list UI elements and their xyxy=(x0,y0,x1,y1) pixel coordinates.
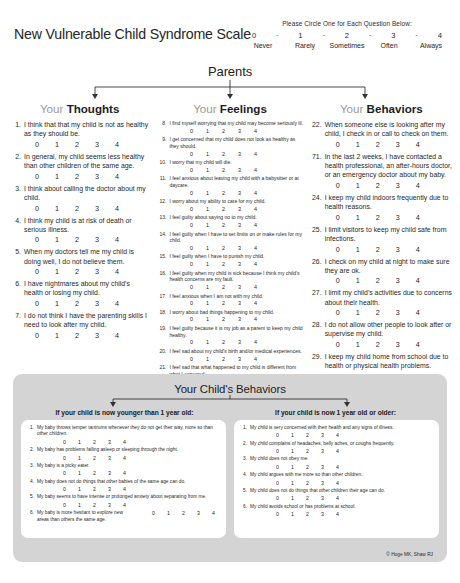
rating-option-1[interactable]: 1 xyxy=(348,140,368,150)
rating-option-4[interactable]: 4 xyxy=(247,284,263,291)
rating-option-3[interactable]: 3 xyxy=(315,495,330,502)
rating-option-1[interactable]: 1 xyxy=(47,267,67,277)
rating-option-2[interactable]: 2 xyxy=(300,432,315,439)
rating-option-1[interactable]: 1 xyxy=(348,340,368,350)
rating-option-3[interactable]: 3 xyxy=(315,480,330,487)
rating-option-0[interactable]: 0 xyxy=(27,235,47,245)
rating-option-1[interactable]: 1 xyxy=(47,204,67,214)
rating-option-2[interactable]: 2 xyxy=(215,206,231,213)
rating-option-4[interactable]: 4 xyxy=(117,502,132,509)
rating-scale-row[interactable]: 01234 xyxy=(37,455,221,462)
rating-option-0[interactable]: 0 xyxy=(183,339,199,346)
rating-option-0[interactable]: 0 xyxy=(328,213,348,223)
rating-option-4[interactable]: 4 xyxy=(330,480,345,487)
rating-option-1[interactable]: 1 xyxy=(199,190,215,197)
rating-option-2[interactable]: 2 xyxy=(215,222,231,229)
rating-option-3[interactable]: 3 xyxy=(231,206,247,213)
rating-option-0[interactable]: 0 xyxy=(270,495,285,502)
rating-option-0[interactable]: 0 xyxy=(328,308,348,318)
rating-scale-row[interactable]: 01234 xyxy=(37,439,221,446)
rating-option-2[interactable]: 2 xyxy=(215,316,231,323)
rating-option-3[interactable]: 3 xyxy=(231,190,247,197)
rating-scale-row[interactable]: 01234 xyxy=(325,276,452,286)
rating-option-3[interactable]: 3 xyxy=(87,331,107,341)
rating-option-4[interactable]: 4 xyxy=(330,464,345,471)
rating-scale-row[interactable]: 01234 xyxy=(169,128,304,135)
rating-scale-row[interactable]: 01234 xyxy=(169,151,304,158)
rating-scale-row[interactable]: 01234 xyxy=(24,172,149,182)
rating-option-4[interactable]: 4 xyxy=(247,300,263,307)
rating-scale-row[interactable]: 01234 xyxy=(169,316,304,323)
rating-option-3[interactable]: 3 xyxy=(87,299,107,309)
rating-scale-row[interactable]: 01234 xyxy=(37,502,221,509)
rating-scale-row[interactable]: 01234 xyxy=(169,356,304,363)
rating-option-1[interactable]: 1 xyxy=(199,167,215,174)
rating-option-1[interactable]: 1 xyxy=(348,245,368,255)
rating-option-0[interactable]: 0 xyxy=(183,316,199,323)
rating-scale-row[interactable]: 01234 xyxy=(169,206,304,213)
rating-option-4[interactable]: 4 xyxy=(247,167,263,174)
rating-option-1[interactable]: 1 xyxy=(199,261,215,268)
rating-scale-row[interactable]: 01234 xyxy=(250,464,434,471)
rating-option-1[interactable]: 1 xyxy=(47,331,67,341)
rating-scale-row[interactable]: 01234 xyxy=(169,245,304,252)
rating-option-2[interactable]: 2 xyxy=(215,190,231,197)
rating-scale-row[interactable]: 01234 xyxy=(37,486,221,493)
rating-option-3[interactable]: 3 xyxy=(315,432,330,439)
rating-option-2[interactable]: 2 xyxy=(87,470,102,477)
rating-option-0[interactable]: 0 xyxy=(57,455,72,462)
rating-option-2[interactable]: 2 xyxy=(215,128,231,135)
rating-option-2[interactable]: 2 xyxy=(215,167,231,174)
rating-option-4[interactable]: 4 xyxy=(408,181,428,191)
rating-option-0[interactable]: 0 xyxy=(270,480,285,487)
rating-option-3[interactable]: 3 xyxy=(102,455,117,462)
rating-option-4[interactable]: 4 xyxy=(408,308,428,318)
rating-option-4[interactable]: 4 xyxy=(408,276,428,286)
rating-option-0[interactable]: 0 xyxy=(57,502,72,509)
rating-scale-row[interactable]: 01234 xyxy=(325,308,452,318)
rating-option-3[interactable]: 3 xyxy=(231,222,247,229)
rating-option-2[interactable]: 2 xyxy=(67,204,87,214)
rating-option-2[interactable]: 2 xyxy=(368,276,388,286)
rating-option-4[interactable]: 4 xyxy=(330,511,345,518)
rating-option-2[interactable]: 2 xyxy=(215,261,231,268)
rating-option-1[interactable]: 1 xyxy=(285,448,300,455)
rating-option-2[interactable]: 2 xyxy=(368,181,388,191)
rating-option-1[interactable]: 1 xyxy=(348,308,368,318)
rating-option-4[interactable]: 4 xyxy=(117,470,132,477)
rating-option-1[interactable]: 1 xyxy=(199,151,215,158)
rating-option-4[interactable]: 4 xyxy=(107,140,127,150)
rating-option-4[interactable]: 4 xyxy=(408,140,428,150)
rating-option-1[interactable]: 1 xyxy=(199,316,215,323)
rating-option-1[interactable]: 1 xyxy=(47,172,67,182)
rating-option-0[interactable]: 0 xyxy=(183,261,199,268)
rating-option-0[interactable]: 0 xyxy=(57,439,72,446)
rating-option-3[interactable]: 3 xyxy=(315,511,330,518)
rating-option-2[interactable]: 2 xyxy=(215,151,231,158)
rating-option-2[interactable]: 2 xyxy=(67,267,87,277)
rating-option-0[interactable]: 0 xyxy=(183,245,199,252)
rating-option-3[interactable]: 3 xyxy=(102,486,117,493)
rating-option-3[interactable]: 3 xyxy=(102,502,117,509)
rating-option-3[interactable]: 3 xyxy=(231,128,247,135)
rating-option-4[interactable]: 4 xyxy=(117,439,132,446)
rating-option-4[interactable]: 4 xyxy=(247,206,263,213)
rating-option-2[interactable]: 2 xyxy=(87,486,102,493)
rating-option-0[interactable]: 0 xyxy=(183,222,199,229)
rating-option-4[interactable]: 4 xyxy=(117,455,132,462)
rating-option-4[interactable]: 4 xyxy=(247,339,263,346)
rating-option-3[interactable]: 3 xyxy=(87,267,107,277)
rating-option-2[interactable]: 2 xyxy=(300,448,315,455)
rating-option-3[interactable]: 3 xyxy=(231,316,247,323)
rating-option-4[interactable]: 4 xyxy=(247,261,263,268)
rating-option-2[interactable]: 2 xyxy=(368,340,388,350)
rating-option-1[interactable]: 1 xyxy=(47,299,67,309)
rating-option-2[interactable]: 2 xyxy=(368,245,388,255)
rating-scale-row[interactable]: 01234 xyxy=(24,235,149,245)
rating-scale-row[interactable]: 01234 xyxy=(250,511,434,518)
rating-scale-row[interactable]: 01234 xyxy=(37,470,221,477)
rating-option-0[interactable]: 0 xyxy=(183,151,199,158)
rating-option-1[interactable]: 1 xyxy=(199,284,215,291)
rating-option-3[interactable]: 3 xyxy=(191,510,206,517)
rating-option-2[interactable]: 2 xyxy=(300,495,315,502)
